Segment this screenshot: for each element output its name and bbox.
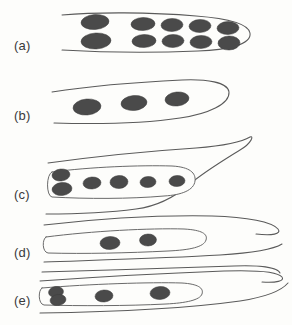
panel-label-e: (e) bbox=[14, 293, 31, 308]
panel-d bbox=[42, 216, 282, 273]
panel-b-nucleus-2 bbox=[120, 94, 147, 111]
panel-label-a: (a) bbox=[14, 38, 31, 53]
panel-c bbox=[46, 137, 252, 214]
panel-b-nucleus-1 bbox=[72, 98, 101, 116]
panel-a-nucleus-3 bbox=[131, 17, 155, 31]
panel-label-d: (d) bbox=[14, 245, 31, 260]
figure-container: (a)(b)(c)(d)(e) bbox=[0, 0, 292, 325]
panel-d-inner-outline bbox=[43, 229, 206, 254]
panel-label-b: (b) bbox=[14, 108, 31, 123]
panel-d-contour-2 bbox=[42, 266, 280, 273]
panel-a-nucleus-9 bbox=[217, 21, 239, 35]
panel-e bbox=[39, 271, 288, 313]
panel-a-nucleus-2 bbox=[81, 32, 112, 50]
panel-a-nucleus-8 bbox=[190, 35, 212, 49]
panel-a-nucleus-4 bbox=[132, 34, 156, 48]
panel-a-nucleus-7 bbox=[189, 19, 211, 33]
panel-a-nucleus-10 bbox=[218, 36, 240, 51]
panel-a-nucleus-1 bbox=[81, 14, 110, 31]
figure-diagram: (a)(b)(c)(d)(e) bbox=[0, 0, 292, 325]
panel-b-nucleus-3 bbox=[164, 91, 189, 107]
panel-a-nucleus-6 bbox=[162, 34, 184, 48]
panel-a bbox=[62, 13, 250, 52]
panels-group bbox=[39, 13, 288, 313]
panel-a-nucleus-5 bbox=[161, 18, 183, 32]
panel-e-outline bbox=[40, 271, 283, 283]
panel-label-c: (c) bbox=[14, 187, 30, 202]
panel-labels-group: (a)(b)(c)(d)(e) bbox=[14, 38, 31, 308]
panel-b bbox=[52, 80, 229, 124]
